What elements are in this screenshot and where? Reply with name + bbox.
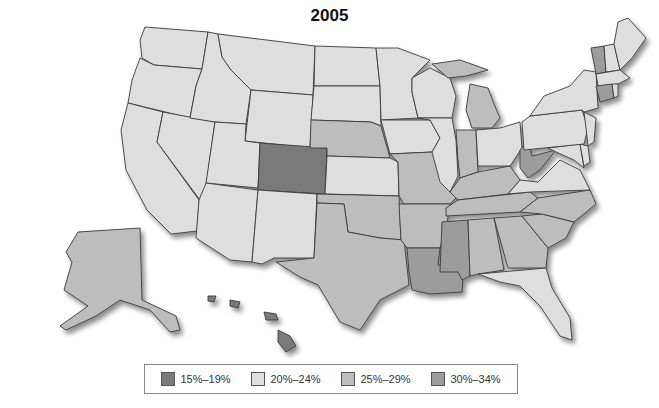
legend-item-30-34: 30%–34% bbox=[431, 372, 500, 386]
state-mississippi bbox=[440, 220, 470, 280]
state-kansas bbox=[325, 156, 399, 196]
state-new-jersey bbox=[584, 112, 596, 146]
legend-label: 30%–34% bbox=[450, 373, 500, 385]
state-iowa bbox=[381, 120, 440, 154]
legend-swatch bbox=[251, 372, 265, 386]
legend-item-15-19: 15%–19% bbox=[161, 372, 230, 386]
us-map bbox=[0, 0, 659, 408]
legend-swatch bbox=[431, 372, 445, 386]
state-indiana bbox=[456, 130, 478, 178]
state-wyoming bbox=[245, 90, 313, 148]
state-hawaii-maui bbox=[264, 312, 278, 320]
legend-label: 20%–24% bbox=[270, 373, 320, 385]
legend-label: 25%–29% bbox=[360, 373, 410, 385]
state-new-mexico bbox=[252, 190, 317, 264]
legend: 15%–19% 20%–24% 25%–29% 30%–34% bbox=[144, 364, 518, 394]
state-maine bbox=[614, 18, 646, 70]
legend-swatch bbox=[161, 372, 175, 386]
state-ohio bbox=[476, 122, 522, 166]
state-connecticut bbox=[596, 84, 614, 102]
legend-swatch bbox=[341, 372, 355, 386]
state-alaska bbox=[60, 228, 180, 332]
state-florida bbox=[478, 268, 572, 340]
legend-item-20-24: 20%–24% bbox=[251, 372, 320, 386]
state-colorado bbox=[258, 143, 327, 194]
legend-item-25-29: 25%–29% bbox=[341, 372, 410, 386]
state-hawaii-oahu bbox=[230, 300, 240, 308]
legend-label: 15%–19% bbox=[180, 373, 230, 385]
state-vermont bbox=[591, 46, 606, 74]
state-arizona bbox=[196, 183, 258, 262]
state-new-york bbox=[530, 70, 598, 116]
state-hawaii-kauai bbox=[208, 296, 216, 302]
state-michigan bbox=[466, 84, 500, 128]
state-hawaii-big bbox=[278, 330, 296, 352]
state-north-dakota bbox=[314, 46, 380, 86]
